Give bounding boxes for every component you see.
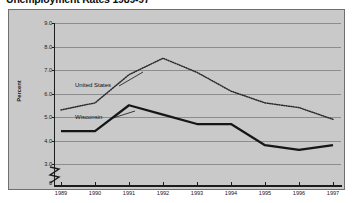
page-title: Unemployment Rates 1989-97 — [6, 0, 150, 5]
x-tick-mark — [197, 182, 198, 186]
y-tick-label: 7.0 — [44, 67, 52, 73]
x-tick-mark — [231, 182, 232, 186]
x-tick-label: 1997 — [327, 190, 339, 196]
x-tick-mark — [129, 182, 130, 186]
x-tick-label: 1995 — [259, 190, 271, 196]
gridline — [55, 70, 341, 71]
x-tick-label: 1994 — [225, 190, 237, 196]
x-tick-mark — [163, 182, 164, 186]
gridline — [55, 23, 341, 24]
y-tick-mark — [52, 47, 55, 48]
y-tick-mark — [52, 164, 55, 165]
plot-area — [55, 23, 341, 172]
y-tick-label: 5.0 — [44, 114, 52, 120]
gridline — [55, 164, 341, 165]
gridline — [55, 94, 341, 95]
series-label-wisconsin: Wisconsin — [75, 114, 102, 120]
series-label-united-states: United States — [75, 82, 111, 88]
x-tick-mark — [95, 182, 96, 186]
x-tick-mark — [265, 182, 266, 186]
gridline — [55, 141, 341, 142]
x-tick-label: 1996 — [293, 190, 305, 196]
y-tick-mark — [52, 141, 55, 142]
y-tick-mark — [52, 70, 55, 71]
y-tick-mark — [52, 94, 55, 95]
chart-page: Unemployment Rates 1989-97 9.08.07.06.05… — [0, 0, 353, 203]
y-tick-label: 4.0 — [44, 138, 52, 144]
y-tick-label: 9.0 — [44, 20, 52, 26]
x-tick-label: 1993 — [191, 190, 203, 196]
y-axis-title: Percent — [16, 73, 22, 109]
x-tick-label: 1989 — [55, 190, 67, 196]
gridline — [55, 47, 341, 48]
x-tick-label: 1990 — [89, 190, 101, 196]
y-tick-label: 6.0 — [44, 91, 52, 97]
x-tick-mark — [299, 182, 300, 186]
y-axis-tick-labels: 9.08.07.06.05.04.03.00 — [31, 10, 52, 191]
y-tick-mark — [52, 117, 55, 118]
y-tick-label: 8.0 — [44, 44, 52, 50]
x-tick-mark — [61, 182, 62, 186]
axis-break-icon — [48, 166, 61, 184]
figure-frame: 9.08.07.06.05.04.03.00 Percent 198919901… — [8, 9, 345, 190]
x-tick-label: 1992 — [157, 190, 169, 196]
y-tick-mark — [52, 23, 55, 24]
x-tick-mark — [333, 182, 334, 186]
x-tick-label: 1991 — [123, 190, 135, 196]
